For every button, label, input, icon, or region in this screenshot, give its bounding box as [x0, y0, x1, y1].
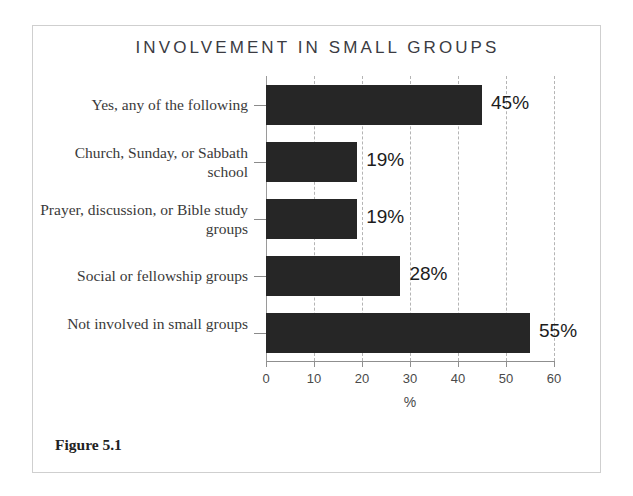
x-axis-title: %	[266, 394, 554, 410]
category-label: Church, Sunday, or Sabbath school	[38, 143, 248, 181]
category-tick	[254, 105, 266, 106]
x-tick-10	[314, 361, 315, 367]
category-label: Social or fellowship groups	[38, 266, 248, 285]
category-tick	[254, 219, 266, 220]
x-tick-60	[554, 361, 555, 367]
bar[interactable]	[266, 85, 482, 125]
x-tick-label-60: 60	[534, 371, 574, 386]
x-tick-20	[362, 361, 363, 367]
figure-frame: INVOLVEMENT IN SMALL GROUPS Yes, any of …	[32, 25, 601, 473]
bar-value-label: 55%	[539, 320, 577, 342]
x-tick-40	[458, 361, 459, 367]
category-tick	[254, 162, 266, 163]
plot-area	[266, 76, 554, 361]
bar[interactable]	[266, 199, 357, 239]
bar[interactable]	[266, 142, 357, 182]
bar-value-label: 28%	[409, 263, 447, 285]
category-label: Not involved in small groups	[38, 314, 248, 333]
x-tick-label-30: 30	[390, 371, 430, 386]
figure-caption: Figure 5.1	[55, 436, 122, 454]
category-label-column: Yes, any of the followingChurch, Sunday,…	[38, 26, 248, 474]
category-label: Yes, any of the following	[38, 95, 248, 114]
category-label: Prayer, discussion, or Bible study group…	[38, 200, 248, 238]
x-tick-50	[506, 361, 507, 367]
x-tick-label-40: 40	[438, 371, 478, 386]
category-tick	[254, 276, 266, 277]
bar[interactable]	[266, 313, 530, 353]
bar-value-label: 19%	[366, 206, 404, 228]
x-tick-label-0: 0	[246, 371, 286, 386]
gridline-60	[554, 76, 555, 361]
bar[interactable]	[266, 256, 400, 296]
x-tick-30	[410, 361, 411, 367]
x-tick-label-20: 20	[342, 371, 382, 386]
category-tick	[254, 333, 266, 334]
bar-value-label: 19%	[366, 149, 404, 171]
bar-value-label: 45%	[491, 92, 529, 114]
x-tick-label-50: 50	[486, 371, 526, 386]
x-tick-0	[266, 361, 267, 367]
x-tick-label-10: 10	[294, 371, 334, 386]
